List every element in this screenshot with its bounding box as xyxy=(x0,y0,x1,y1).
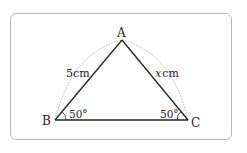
angle-label-c: 50° xyxy=(160,108,179,120)
angle-arc-b xyxy=(62,112,66,120)
side-label-ab: 5cm xyxy=(66,67,90,80)
side-label-ac: xcm xyxy=(155,67,179,80)
side-label-ac-var: x xyxy=(155,67,162,80)
vertex-label-b: B xyxy=(42,114,51,128)
side-ab xyxy=(55,40,122,120)
vertex-label-c: C xyxy=(191,116,200,130)
triangle-diagram: A B C 5cm xcm 50° 50° xyxy=(0,0,247,153)
angle-label-b: 50° xyxy=(69,108,88,120)
vertex-label-a: A xyxy=(116,26,126,40)
side-label-ac-unit: cm xyxy=(162,67,179,80)
